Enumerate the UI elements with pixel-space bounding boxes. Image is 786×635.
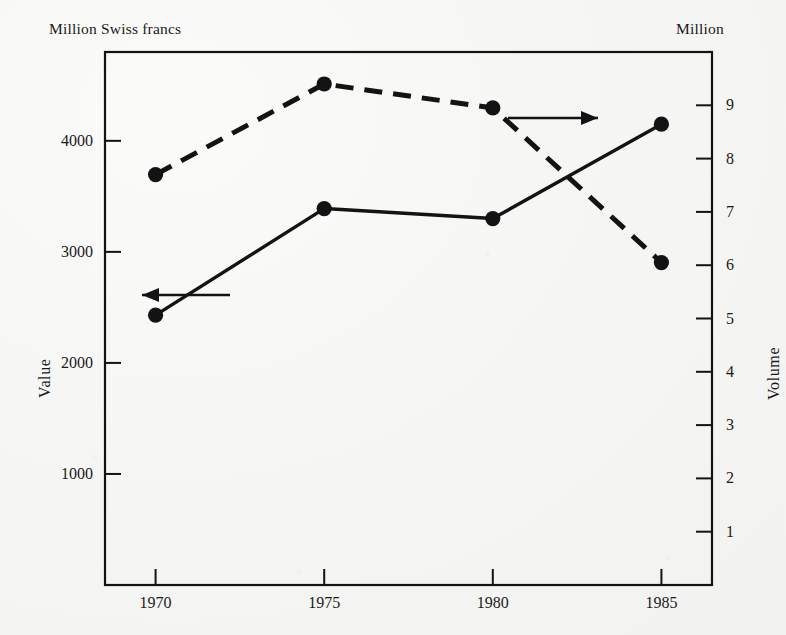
left-tick-label-4000: 4000 [61,132,93,150]
left-tick-label-3000: 3000 [61,243,93,261]
right-tick-label-9: 9 [726,96,734,114]
data-point-volume-1980 [485,100,500,115]
data-point-value-1975 [317,201,332,216]
left-axis-unit-label: Million Swiss francs [49,20,181,38]
data-series [148,76,669,322]
right-axis-unit-label: Million [676,20,724,38]
right-tick-label-1: 1 [726,523,734,541]
right-axis-title: Volume [765,347,783,400]
left-tick-label-1000: 1000 [61,465,93,483]
data-point-volume-1975 [317,76,332,91]
x-tick-label-1980: 1980 [477,594,509,612]
dual-axis-line-chart: Million Swiss francs Million Value Volum… [0,0,786,635]
data-point-value-1980 [485,211,500,226]
right-tick-label-4: 4 [726,363,734,381]
right-tick-label-6: 6 [726,256,734,274]
axis-ticks [105,105,712,585]
right-tick-label-3: 3 [726,416,734,434]
plot-canvas [0,0,786,635]
data-point-value-1985 [654,117,669,132]
series-line-volume [156,84,662,263]
x-tick-label-1975: 1975 [308,594,340,612]
arrow-to-right-axis [508,111,598,125]
data-point-volume-1970 [148,167,163,182]
right-tick-label-8: 8 [726,150,734,168]
right-tick-label-2: 2 [726,469,734,487]
series-line-value [156,124,662,315]
plot-frame [105,52,712,585]
right-tick-label-7: 7 [726,203,734,221]
data-point-volume-1985 [654,255,669,270]
data-point-value-1970 [148,308,163,323]
x-tick-label-1970: 1970 [140,594,172,612]
right-tick-label-5: 5 [726,310,734,328]
left-tick-label-2000: 2000 [61,354,93,372]
left-axis-title: Value [36,359,54,398]
x-tick-label-1985: 1985 [645,594,677,612]
